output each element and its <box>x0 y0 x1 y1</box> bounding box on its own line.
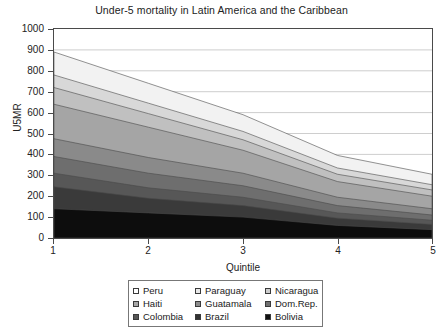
x-axis-tick-label: 4 <box>326 246 350 256</box>
legend-item-guatamala[interactable]: Guatamala <box>195 299 265 309</box>
legend-item-haiti[interactable]: Haiti <box>133 299 195 309</box>
legend-swatch-icon <box>265 301 271 307</box>
y-axis-tick-label: 200 <box>0 191 44 201</box>
legend-item-bolivia[interactable]: Bolivia <box>265 312 323 322</box>
legend-item-nicaragua[interactable]: Nicaragua <box>265 286 323 296</box>
y-axis-tick-mark <box>48 92 53 93</box>
legend-swatch-icon <box>195 301 201 307</box>
y-axis-tick-label: 1000 <box>0 24 44 34</box>
area-series-group <box>54 52 432 238</box>
legend-label: Haiti <box>143 299 162 309</box>
legend-label: Dom.Rep. <box>275 299 318 309</box>
x-axis-tick-mark <box>53 239 54 244</box>
legend-swatch-icon <box>195 288 201 294</box>
legend-item-paraguay[interactable]: Paraguay <box>195 286 265 296</box>
legend-label: Guatamala <box>205 299 251 309</box>
legend-swatch-icon <box>265 314 271 320</box>
x-axis-tick-label: 5 <box>421 246 443 256</box>
chart-title: Under-5 mortality in Latin America and t… <box>0 4 443 16</box>
y-axis-tick-label: 700 <box>0 87 44 97</box>
legend-label: Peru <box>143 286 163 296</box>
y-axis-tick-mark <box>48 154 53 155</box>
y-axis-tick-label: 800 <box>0 66 44 76</box>
x-axis-tick-mark <box>148 239 149 244</box>
y-axis-tick-mark <box>48 175 53 176</box>
stacked-area-plot <box>54 29 432 238</box>
plot-area <box>53 28 433 239</box>
legend-label: Brazil <box>205 312 229 322</box>
x-axis-tick-label: 1 <box>41 246 65 256</box>
y-axis-tick-mark <box>48 29 53 30</box>
legend-swatch-icon <box>133 314 139 320</box>
legend-item-domrep[interactable]: Dom.Rep. <box>265 299 323 309</box>
y-axis-tick-label: 400 <box>0 149 44 159</box>
x-axis-tick-label: 3 <box>231 246 255 256</box>
y-axis-tick-mark <box>48 50 53 51</box>
legend-label: Nicaragua <box>275 286 318 296</box>
chart-container: Under-5 mortality in Latin America and t… <box>0 0 443 333</box>
legend-swatch-icon <box>133 301 139 307</box>
legend-swatch-icon <box>133 288 139 294</box>
y-axis-tick-label: 100 <box>0 212 44 222</box>
legend-label: Paraguay <box>205 286 246 296</box>
y-axis-tick-mark <box>48 71 53 72</box>
y-axis-tick-mark <box>48 134 53 135</box>
y-axis-tick-label: 500 <box>0 129 44 139</box>
legend-grid: PeruParaguayNicaraguaHaitiGuatamalaDom.R… <box>133 284 318 323</box>
y-axis-tick-mark <box>48 217 53 218</box>
x-axis-tick-mark <box>432 239 433 244</box>
x-axis-tick-mark <box>338 239 339 244</box>
y-axis-tick-label: 900 <box>0 45 44 55</box>
x-axis-tick-mark <box>243 239 244 244</box>
y-axis-tick-label: 300 <box>0 170 44 180</box>
legend-label: Colombia <box>143 312 183 322</box>
y-axis-tick-label: 600 <box>0 108 44 118</box>
chart-legend: PeruParaguayNicaraguaHaitiGuatamalaDom.R… <box>128 280 323 327</box>
y-axis-tick-label: 0 <box>0 233 44 243</box>
legend-label: Bolivia <box>275 312 303 322</box>
y-axis-tick-mark <box>48 113 53 114</box>
x-axis-title: Quintile <box>53 262 433 273</box>
legend-swatch-icon <box>195 314 201 320</box>
legend-item-peru[interactable]: Peru <box>133 286 195 296</box>
x-axis-tick-label: 2 <box>136 246 160 256</box>
legend-item-brazil[interactable]: Brazil <box>195 312 265 322</box>
legend-item-colombia[interactable]: Colombia <box>133 312 195 322</box>
y-axis-tick-labels: 01002003004005006007008009001000 <box>0 0 50 333</box>
legend-swatch-icon <box>265 288 271 294</box>
y-axis-tick-mark <box>48 196 53 197</box>
